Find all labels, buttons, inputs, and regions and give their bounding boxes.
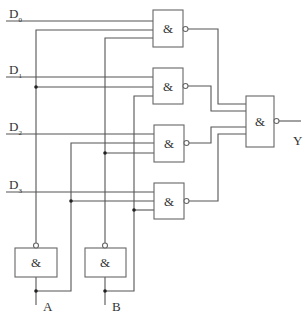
inversion-bubble: [184, 141, 189, 146]
inversion-bubble: [183, 27, 188, 32]
inversion-bubble: [184, 199, 189, 204]
junction-dot: [69, 199, 73, 203]
label-d0: D0: [9, 7, 22, 24]
label-a: A: [43, 300, 52, 313]
junction-dot: [34, 289, 38, 293]
junction-dot: [34, 85, 38, 89]
gate-symbol-g1: &: [153, 80, 183, 93]
junction-dot: [132, 208, 136, 212]
label-d2: D2: [9, 120, 22, 137]
gate-symbol-inv-b: &: [90, 256, 120, 269]
inversion-bubble: [103, 243, 108, 248]
gate-symbol-g3: &: [154, 195, 184, 208]
junction-dot: [103, 151, 107, 155]
label-d1: D1: [9, 63, 22, 80]
label-b: B: [112, 300, 121, 313]
label-d3: D3: [9, 178, 22, 195]
circuit-wires: [0, 0, 308, 319]
gate-symbol-output: &: [245, 115, 275, 128]
inversion-bubble: [34, 243, 39, 248]
wire-not-b: [105, 38, 153, 243]
wire-g0-out: [188, 29, 246, 104]
gate-symbol-g2: &: [154, 137, 184, 150]
wire-g3-out: [189, 134, 246, 201]
gate-symbol-inv-a: &: [21, 256, 51, 269]
junction-dot: [103, 289, 107, 293]
label-y: Y: [293, 134, 302, 147]
wire-g1-out: [188, 86, 246, 111]
gate-symbol-g0: &: [153, 22, 183, 35]
inversion-bubble: [183, 84, 188, 89]
